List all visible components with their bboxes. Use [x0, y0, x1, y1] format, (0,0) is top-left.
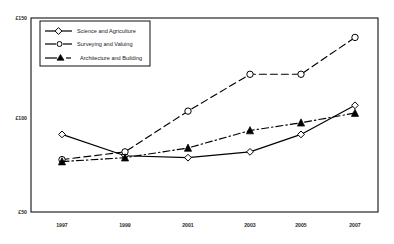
data-point-circle	[352, 34, 358, 40]
circle-marker-icon	[57, 42, 62, 47]
y-tick-label-50: £50	[18, 209, 27, 215]
legend-entry-architecture-and-building[interactable]: Architecture and Building	[45, 55, 142, 62]
legend-label-surveying-and-valuing: Surveying and Valuing	[77, 41, 133, 47]
legend: Science and Agriculture Surveying and Va…	[40, 21, 150, 66]
legend-entry-science-and-agriculture[interactable]: Science and Agriculture	[45, 28, 136, 35]
x-tick-label-1997: 1997	[56, 222, 68, 228]
x-tick-label-2007: 2007	[349, 222, 361, 228]
legend-entry-surveying-and-valuing[interactable]: Surveying and Valuing	[45, 41, 133, 47]
y-tick-label-100: £100	[15, 115, 27, 121]
x-tick-label-2001: 2001	[182, 222, 194, 228]
y-tick-label-150: £150	[15, 15, 27, 21]
data-point-circle	[298, 71, 304, 77]
x-tick-label-1999: 1999	[119, 222, 131, 228]
data-point-circle	[185, 108, 191, 114]
legend-label-architecture-and-building: Architecture and Building	[80, 55, 142, 61]
legend-label-science-and-agriculture: Science and Agriculture	[77, 28, 136, 34]
data-point-circle	[247, 71, 253, 77]
line-chart: £150 £100 £50 1997 1999 2001 2003 2005 2…	[0, 0, 394, 244]
x-tick-label-2005: 2005	[295, 222, 307, 228]
x-tick-label-2003: 2003	[244, 222, 256, 228]
